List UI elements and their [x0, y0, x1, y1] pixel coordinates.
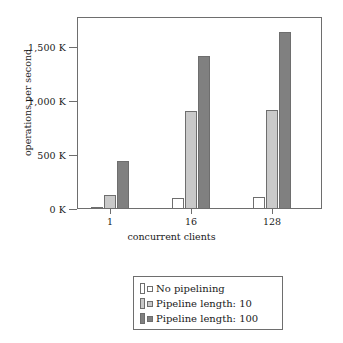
- bar-1-series-1: [91, 207, 103, 209]
- chart-legend: No pipelining Pipeline length: 10 Pipeli…: [133, 276, 283, 330]
- legend-swatch-small-series-1: [147, 286, 153, 292]
- legend-swatch-tall-series-3: [140, 313, 145, 324]
- x-tick-label-128: 128: [242, 216, 302, 227]
- bar-16-series-2: [185, 111, 197, 209]
- y-tick-label-3: 1,500 K: [28, 42, 66, 53]
- bar-1-series-2: [104, 195, 116, 209]
- legend-swatch-tall-series-1: [140, 283, 145, 294]
- y-tick-label-1: 500 K: [37, 150, 66, 161]
- legend-label-series-1: No pipelining: [156, 283, 225, 294]
- legend-swatch-small-series-3: [147, 316, 153, 322]
- y-tick-mark-1: [69, 155, 77, 156]
- legend-label-series-3: Pipeline length: 100: [156, 313, 258, 324]
- bar-128-series-2: [266, 110, 278, 209]
- bar-16-series-3: [198, 56, 210, 209]
- bar-128-series-1: [253, 197, 265, 209]
- chart-page: operations per second 0 K 500 K 1,000 K …: [0, 0, 343, 343]
- y-tick-mark-3: [69, 47, 77, 48]
- legend-swatch-small-series-2: [147, 301, 153, 307]
- x-tick-label-1: 1: [80, 216, 140, 227]
- bar-1-series-3: [117, 161, 129, 209]
- x-axis-title: concurrent clients: [0, 231, 343, 242]
- y-tick-mark-2: [69, 101, 77, 102]
- legend-item-pipeline-100: Pipeline length: 100: [140, 311, 276, 326]
- legend-item-no-pipelining: No pipelining: [140, 281, 276, 296]
- y-tick-mark-0: [69, 209, 77, 210]
- bar-128-series-3: [279, 32, 291, 209]
- x-tick-label-16: 16: [161, 216, 221, 227]
- x-tick-mark-1: [110, 209, 111, 214]
- x-tick-mark-128: [272, 209, 273, 214]
- y-tick-label-2: 1,000 K: [28, 96, 66, 107]
- legend-label-series-2: Pipeline length: 10: [156, 298, 252, 309]
- bar-16-series-1: [172, 198, 184, 209]
- x-tick-mark-16: [191, 209, 192, 214]
- legend-item-pipeline-10: Pipeline length: 10: [140, 296, 276, 311]
- bars-layer: [78, 18, 321, 209]
- legend-swatch-tall-series-2: [140, 298, 145, 309]
- y-tick-label-0: 0 K: [50, 204, 66, 215]
